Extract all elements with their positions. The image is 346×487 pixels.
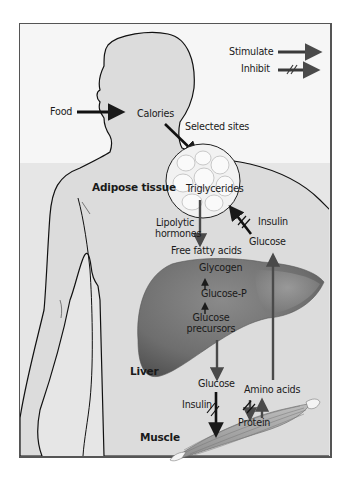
- glucose-precursors-label: Glucose precursors: [186, 312, 236, 334]
- insulin-muscle-label: Insulin: [182, 399, 212, 410]
- diagram-artwork: [0, 0, 346, 487]
- selected-sites-label: Selected sites: [185, 121, 249, 132]
- glycogen-label: Glycogen: [199, 262, 242, 273]
- glucose-liver-label: Glucose: [198, 378, 235, 389]
- calories-label: Calories: [137, 108, 174, 119]
- free-fatty-acids-label: Free fatty acids: [171, 245, 242, 256]
- muscle-label: Muscle: [140, 432, 180, 443]
- glucose-adipose-label: Glucose: [249, 236, 286, 247]
- protein-label: Protein: [238, 417, 270, 428]
- legend-inhibit-label: Inhibit: [241, 63, 270, 74]
- food-label: Food: [50, 106, 72, 117]
- legend-stimulate-label: Stimulate: [229, 46, 273, 57]
- insulin-adipose-label: Insulin: [258, 216, 288, 227]
- adipose-tissue-label: Adipose tissue: [92, 182, 176, 193]
- liver-label: Liver: [130, 366, 158, 377]
- lipolytic-hormones-label: Lipolytic hormones: [155, 217, 195, 239]
- amino-acids-label: Amino acids: [244, 384, 300, 395]
- adipose-cell-circle: [166, 144, 240, 218]
- glucose-p-label: Glucose-P: [201, 288, 247, 299]
- triglycerides-label: Triglycerides: [186, 183, 244, 194]
